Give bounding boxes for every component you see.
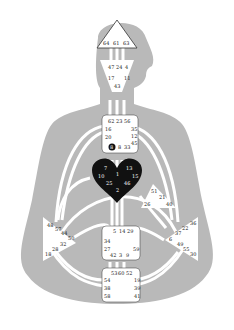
gate-54: 54: [104, 277, 110, 283]
gate-2: 2: [116, 187, 119, 193]
gate-8: 8: [118, 144, 121, 150]
gate-4: 4: [125, 64, 128, 70]
gate-61: 61: [113, 40, 119, 46]
gate-13: 13: [126, 165, 132, 171]
gate-41: 41: [134, 293, 140, 299]
gate-24: 24: [116, 64, 122, 70]
gate-44: 44: [61, 230, 67, 236]
gate-52: 52: [126, 270, 132, 276]
gate-25: 25: [106, 180, 112, 186]
gate-23: 23: [116, 118, 122, 124]
gate-48: 48: [47, 222, 53, 228]
gate-7: 7: [104, 165, 107, 171]
gate-43: 43: [114, 83, 120, 89]
gate-35: 35: [131, 126, 137, 132]
gate-63: 63: [123, 40, 129, 46]
gate-32: 32: [60, 241, 66, 247]
gate-60: 60: [118, 270, 124, 276]
throat-center[interactable]: 62 23 56 16 35 20 12 45 8 8 33: [102, 115, 138, 153]
gate-5: 5: [113, 228, 116, 234]
gate-56: 56: [124, 118, 130, 124]
gate-45: 45: [131, 140, 137, 146]
gate-22: 22: [182, 225, 188, 231]
gate-28: 28: [52, 246, 58, 252]
gate-37: 37: [175, 230, 181, 236]
gate-46: 46: [124, 180, 130, 186]
gate-21: 21: [159, 194, 165, 200]
gate-15: 15: [132, 173, 138, 179]
gate-26: 26: [144, 201, 150, 207]
gate-10: 10: [98, 173, 104, 179]
gate-16: 16: [105, 126, 111, 132]
gate-38: 38: [104, 285, 110, 291]
gate-42: 42: [110, 252, 116, 258]
gate-55: 55: [183, 246, 189, 252]
gate-30: 30: [190, 251, 196, 257]
gate-34: 34: [104, 238, 110, 244]
gate-20: 20: [105, 134, 111, 140]
gate-17: 17: [108, 75, 114, 81]
gate-40: 40: [166, 201, 172, 207]
gate-53: 53: [111, 270, 117, 276]
gate-33: 33: [124, 144, 130, 150]
sacral-center[interactable]: 5 14 29 34 27 59 42 3 9: [102, 226, 140, 260]
gate-58: 58: [104, 293, 110, 299]
gate-50: 50: [68, 235, 74, 241]
gate-6: 6: [169, 236, 172, 242]
gate-11: 11: [124, 75, 130, 81]
gate-9: 9: [126, 252, 129, 258]
gate-8-active: 8: [110, 144, 113, 150]
gate-64: 64: [103, 40, 109, 46]
gate-47: 47: [108, 64, 114, 70]
gate-59: 59: [133, 246, 139, 252]
gate-18: 18: [45, 251, 51, 257]
gate-51: 51: [151, 188, 157, 194]
gate-14: 14: [119, 228, 125, 234]
root-center[interactable]: 53 60 52 54 19 38 39 58 41: [102, 268, 140, 302]
gate-1: 1: [116, 171, 119, 177]
gate-12: 12: [131, 133, 137, 139]
gate-29: 29: [127, 228, 133, 234]
gate-62: 62: [108, 118, 114, 124]
bodygraph: 64 61 63 47 24 4 17 11 43 62 23 56 16 35…: [0, 0, 234, 330]
gate-19: 19: [134, 277, 140, 283]
gate-3: 3: [119, 252, 122, 258]
gate-36: 36: [190, 220, 196, 226]
gate-39: 39: [134, 285, 140, 291]
